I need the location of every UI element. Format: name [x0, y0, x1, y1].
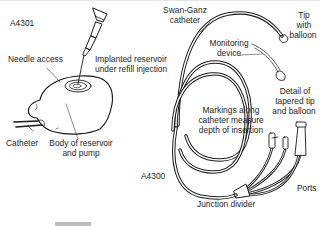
label-swan-ganz-1: Swan-Ganz: [160, 6, 210, 15]
label-detail-3: and balloon: [268, 107, 320, 116]
figure-code-a4300: A4300: [141, 172, 165, 181]
label-body-of-reservoir-2: and pump: [48, 149, 114, 158]
label-swan-ganz-2: catheter: [160, 16, 210, 25]
label-body-of-reservoir-1: Body of reservoir: [48, 139, 114, 148]
horizontal-scrollbar-thumb[interactable]: [55, 222, 91, 226]
label-monitoring-1: Monitoring: [204, 39, 254, 48]
label-markings-3: depth of insertion: [196, 126, 266, 135]
label-implanted-reservoir-2: under refill injection: [95, 65, 167, 74]
label-detail-2: tapered tip: [270, 97, 320, 106]
label-junction-divider: Junction divider: [197, 200, 255, 209]
label-tip-1: Tip: [290, 11, 318, 20]
label-implanted-reservoir-1: Implanted reservoir: [95, 55, 167, 64]
label-markings-1: Markings along: [196, 106, 266, 115]
label-ports: Ports: [297, 184, 317, 193]
label-needle-access: Needle access: [8, 55, 63, 64]
label-tip-3: balloon: [286, 31, 320, 40]
label-markings-2: catheter measure: [196, 116, 266, 125]
label-tip-2: with: [290, 21, 318, 30]
label-catheter: Catheter: [6, 139, 38, 148]
figure-code-a4301: A4301: [10, 19, 34, 28]
label-detail-1: Detail of: [270, 87, 320, 96]
label-monitoring-2: device: [204, 49, 254, 58]
